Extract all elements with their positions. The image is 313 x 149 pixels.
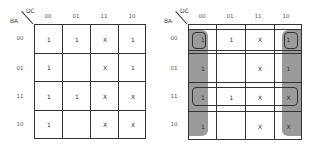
kmap-cell: 1 [189, 54, 217, 83]
kmap-cell: 1 [63, 25, 91, 54]
kmap-cell: 1 [189, 112, 217, 141]
row-header: 01 [166, 65, 182, 71]
column-header: 10 [118, 13, 146, 19]
column-header: 11 [90, 13, 118, 19]
kmap-cell: X [119, 111, 147, 140]
row-variable-label: BA [164, 18, 172, 24]
kmap-cell: 1 [275, 25, 303, 54]
kmap-cell: 1 [35, 111, 63, 140]
kmap-cell: 1 [35, 82, 63, 111]
karnaugh-map-ungrouped: DC BA 00 01 11 10 00 01 11 10 1 1 X 1 1 … [0, 0, 156, 149]
row-header: 00 [12, 35, 28, 41]
kmap-cell: X [275, 83, 303, 112]
kmap-cell: 1 [35, 54, 63, 83]
row-header: 00 [166, 35, 182, 41]
kmap-cell: 1 [35, 25, 63, 54]
kmap-cell [218, 112, 246, 141]
kmap-cell: 1 [119, 54, 147, 83]
row-header: 11 [12, 93, 28, 99]
kmap-cell: X [91, 54, 119, 83]
kmap-cell: X [91, 82, 119, 111]
kmap-cell: 1 [218, 83, 246, 112]
row-header: 11 [166, 93, 182, 99]
column-header: 01 [216, 13, 244, 19]
kmap-cell: 1 [63, 82, 91, 111]
kmap-cell [218, 54, 246, 83]
kmap-cell: 1 [218, 25, 246, 54]
kmap-cell: 1 [275, 54, 303, 83]
kmap-cell [63, 111, 91, 140]
column-header: 11 [244, 13, 272, 19]
kmap-cell: X [91, 111, 119, 140]
column-header: 10 [272, 13, 300, 19]
row-variable-label: BA [10, 18, 18, 24]
column-header: 01 [62, 13, 90, 19]
row-header: 01 [12, 65, 28, 71]
kmap-cell [63, 54, 91, 83]
kmap-grid: 1 1 X 1 1 X 1 1 1 X X 1 X X [34, 24, 146, 139]
kmap-cell: X [91, 25, 119, 54]
kmap-cell: X [246, 83, 274, 112]
kmap-cell: X [246, 25, 274, 54]
kmap-cell: 1 [189, 25, 217, 54]
row-header: 10 [12, 121, 28, 127]
kmap-cell: X [246, 54, 274, 83]
karnaugh-map-grouped: DC BA 00 01 11 10 00 01 11 10 1 1 X 1 1 … [154, 0, 310, 149]
kmap-cell: X [119, 82, 147, 111]
kmap-cell: X [246, 112, 274, 141]
column-header: 00 [188, 13, 216, 19]
kmap-grid: 1 1 X 1 1 X 1 1 1 X X 1 X X [188, 24, 302, 140]
row-header: 10 [166, 121, 182, 127]
column-header: 00 [34, 13, 62, 19]
kmap-cell: 1 [189, 83, 217, 112]
kmap-cell: 1 [119, 25, 147, 54]
kmap-cell: X [275, 112, 303, 141]
